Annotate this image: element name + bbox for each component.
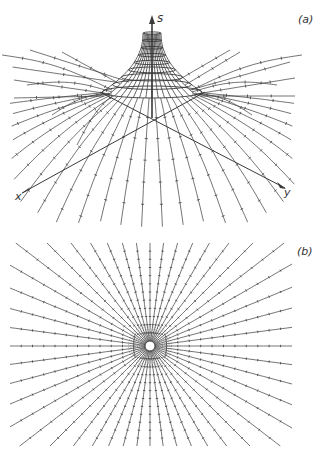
s-axis-label: s	[157, 11, 163, 25]
panel-a-label: (a)	[298, 13, 313, 26]
panel-b-diagram	[10, 243, 292, 446]
figure-canvas	[0, 0, 323, 460]
panel-b-label: (b)	[297, 245, 313, 258]
x-axis-label: x	[15, 190, 22, 203]
y-axis-label: y	[284, 186, 291, 199]
panel-a-diagram	[2, 15, 302, 227]
